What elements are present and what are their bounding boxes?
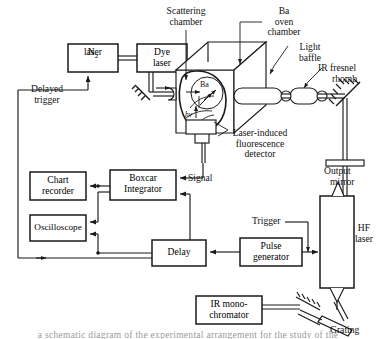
chart-recorder-line2: recorder: [30, 186, 86, 197]
annotation-delayed-trigger: Delayed trigger: [18, 84, 76, 105]
ba-oven-line3: chamber: [258, 27, 310, 38]
figure-canvas: N2 laser Dye laser Chart recorder Oscill…: [0, 0, 376, 339]
dye-laser-line1: Dye: [137, 47, 187, 58]
hf-laser-line1: HF: [352, 223, 376, 234]
ir-mono-line2: chromator: [196, 310, 262, 321]
box-label-dye-laser[interactable]: Dye laser: [137, 47, 187, 68]
boxcar-line1: Boxcar: [110, 173, 176, 184]
box-label-boxcar-integrator[interactable]: Boxcar Integrator: [110, 173, 176, 194]
ir-mono-line1: IR mono-: [196, 299, 262, 310]
n2-laser-line2: laser: [68, 47, 118, 58]
hf-to-grating-beam: [334, 300, 348, 321]
pulse-generator-line1: Pulse: [240, 241, 302, 252]
box-label-delay[interactable]: Delay: [152, 247, 206, 258]
light-baffle-line1: Light: [288, 42, 332, 53]
box-label-chart-recorder[interactable]: Chart recorder: [30, 175, 86, 196]
annotation-ir-fresnel-rhomb: IR fresnel rhomb: [318, 63, 376, 84]
hf-laser-body: [320, 182, 354, 310]
box-label-ir-monochromator[interactable]: IR mono- chromator: [196, 299, 262, 320]
delayed-trigger-line1: Delayed: [18, 84, 76, 95]
box-label-n2-laser[interactable]: N2 laser: [68, 47, 118, 58]
mono-input-mirror: [296, 292, 320, 310]
chart-recorder-line1: Chart: [30, 175, 86, 186]
box-label-oscilloscope[interactable]: Oscilloscope: [30, 222, 86, 233]
lif-line3: detector: [226, 149, 294, 160]
grating-to-mono-beam: [262, 305, 322, 325]
figure-caption-fragment: a schematic diagram of the experimental …: [0, 330, 376, 339]
annotation-trigger: Trigger: [252, 216, 280, 227]
annotation-scattering-chamber: Scattering chamber: [152, 6, 220, 27]
hf-laser-line2: laser: [352, 234, 376, 245]
wire-delay-to-boxcar: [180, 194, 190, 240]
hf-laser-label: HF laser: [352, 223, 376, 244]
chamber-left-port: [168, 88, 176, 100]
annotation-photon-hnu: hν: [185, 110, 192, 121]
annotation-ba-species: Ba: [200, 80, 209, 91]
output-mirror-line1: Output: [324, 166, 374, 177]
delay-line1: Delay: [152, 247, 206, 258]
wire-delay-to-oscilloscope: [90, 234, 152, 253]
ir-fresnel-line1: IR fresnel: [318, 63, 376, 74]
oscilloscope-line1: Oscilloscope: [30, 222, 86, 233]
dye-laser-beam: [149, 72, 176, 96]
delayed-trigger-line2: trigger: [18, 95, 76, 106]
scattering-chamber-line1: Scattering: [152, 6, 220, 17]
boxcar-line2: Integrator: [110, 184, 176, 195]
dye-laser-line2: laser: [137, 58, 187, 69]
ba-oven-line1: Ba: [258, 6, 310, 17]
wire-boxcar-to-oscilloscope: [90, 192, 110, 222]
scattering-chamber-line2: chamber: [152, 17, 220, 28]
n2-to-dye-beam: [118, 56, 137, 60]
ir-beam-path: [234, 88, 345, 104]
output-mirror-line2: mirror: [324, 177, 374, 188]
annotation-signal: Signal: [188, 173, 213, 184]
annotation-light-baffle: Light baffle: [288, 42, 332, 63]
annotation-output-mirror: Output mirror: [324, 166, 374, 187]
pulse-generator-line2: generator: [240, 252, 302, 263]
lif-line1: Laser-induced: [226, 128, 294, 139]
ir-fresnel-line2: rhomb: [318, 74, 376, 85]
lif-detector-tube: [186, 120, 216, 163]
annotation-ba-oven-chamber: Ba oven chamber: [258, 6, 310, 38]
annotation-lif-detector: Laser-induced fluorescence detector: [226, 128, 294, 160]
box-label-pulse-generator[interactable]: Pulse generator: [240, 241, 302, 262]
dye-turn-mirror: [132, 85, 150, 100]
